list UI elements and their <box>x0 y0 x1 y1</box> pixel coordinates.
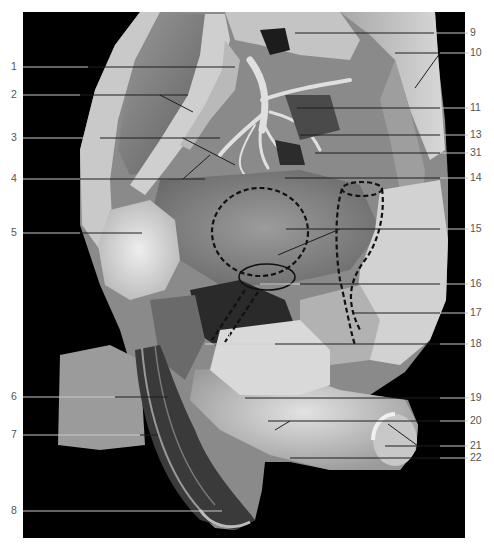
label-19: 19 <box>470 392 482 403</box>
label-18: 18 <box>470 338 482 349</box>
label-6: 6 <box>11 391 17 402</box>
label-17: 17 <box>470 307 482 318</box>
label-9: 9 <box>470 27 476 38</box>
label-13: 13 <box>470 129 482 140</box>
label-7: 7 <box>11 429 17 440</box>
label-31: 31 <box>470 147 482 158</box>
label-4: 4 <box>11 173 17 184</box>
label-22: 22 <box>470 452 482 463</box>
dissection-photo <box>0 0 494 554</box>
label-21: 21 <box>470 440 482 451</box>
anatomy-figure: 1 2 3 4 5 6 7 8 9 10 11 13 31 14 15 16 1… <box>0 0 494 554</box>
label-20: 20 <box>470 415 482 426</box>
label-5: 5 <box>11 227 17 238</box>
label-14: 14 <box>470 172 482 183</box>
label-10: 10 <box>470 47 482 58</box>
label-8: 8 <box>11 505 17 516</box>
label-16: 16 <box>470 278 482 289</box>
label-15: 15 <box>470 223 482 234</box>
label-11: 11 <box>470 102 481 113</box>
label-2: 2 <box>11 89 17 100</box>
label-1: 1 <box>11 61 17 72</box>
label-3: 3 <box>11 132 17 143</box>
